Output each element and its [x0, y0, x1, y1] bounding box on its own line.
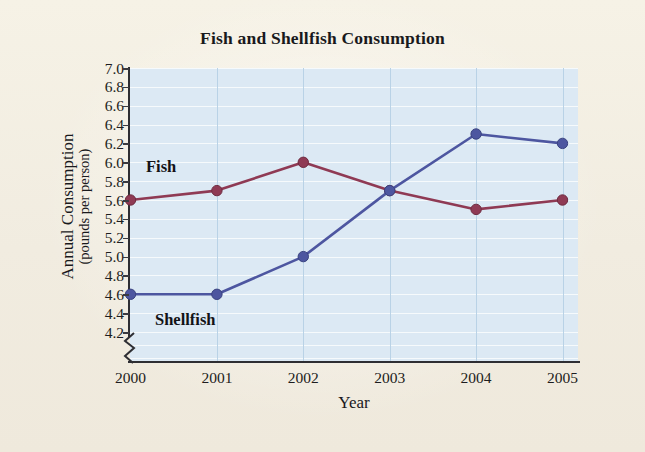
vertical-gridline	[303, 68, 304, 362]
y-axis-tick-mark	[123, 332, 129, 334]
y-axis-tick-mark	[123, 200, 129, 202]
y-axis-tick-label: 4.8	[105, 268, 124, 284]
vertical-gridline	[217, 68, 218, 362]
x-axis-title: Year	[130, 393, 578, 413]
y-axis-tick-mark	[123, 125, 129, 127]
horizontal-gridline	[130, 257, 578, 258]
y-axis-tick-label: 5.2	[105, 230, 124, 246]
horizontal-gridline	[130, 358, 578, 359]
y-axis-tick-mark	[123, 238, 129, 240]
x-axis-tick-labels: 200020012002200320042005	[0, 369, 645, 391]
y-axis-tick-mark	[123, 68, 129, 70]
horizontal-gridline	[130, 106, 578, 107]
horizontal-gridline	[130, 200, 578, 201]
y-axis-tick-mark	[123, 313, 129, 315]
y-axis-tick-mark	[123, 87, 129, 89]
vertical-gridline	[563, 68, 564, 362]
y-axis-tick-mark	[123, 106, 129, 108]
horizontal-gridline	[130, 143, 578, 144]
y-axis-tick-mark	[123, 294, 129, 296]
y-axis-tick-label: 4.2	[105, 325, 124, 341]
y-axis-tick-label: 5.6	[105, 193, 124, 209]
y-axis-tick-mark	[123, 162, 129, 164]
horizontal-gridline	[130, 238, 578, 239]
x-axis-tick-label: 2003	[374, 369, 405, 387]
horizontal-gridline	[130, 275, 578, 276]
y-axis-tick-mark	[123, 275, 129, 277]
y-axis-tick-label: 7.0	[105, 61, 124, 77]
y-axis-tick-label: 5.4	[105, 211, 124, 227]
y-axis-tick-mark	[123, 181, 129, 183]
series-label-fish: Fish	[146, 157, 176, 177]
y-axis-tick-label: 4.6	[105, 287, 124, 303]
y-axis-tick-label: 5.8	[105, 174, 124, 190]
y-axis-tick-label: 6.2	[105, 136, 124, 152]
y-axis-tick-mark	[123, 257, 129, 259]
chart-page: Fish and Shellfish Consumption 7.06.86.6…	[0, 0, 645, 452]
horizontal-gridline	[130, 332, 578, 333]
y-axis-tick-label: 6.6	[105, 98, 124, 114]
horizontal-gridline	[130, 87, 578, 88]
x-axis-tick-label: 2005	[547, 369, 578, 387]
y-axis-tick-label: 6.0	[105, 155, 124, 171]
x-axis-tick-label: 2004	[461, 369, 492, 387]
horizontal-gridline	[130, 219, 578, 220]
horizontal-gridline	[130, 162, 578, 163]
series-label-shellfish: Shellfish	[155, 310, 216, 330]
horizontal-gridline	[130, 345, 578, 346]
x-axis-tick-label: 2001	[201, 369, 232, 387]
y-axis-tick-mark	[123, 219, 129, 221]
y-axis-tick-label: 5.0	[105, 249, 124, 265]
horizontal-gridline	[130, 125, 578, 126]
y-axis-tick-label: 4.4	[105, 306, 124, 322]
horizontal-gridline	[130, 68, 578, 69]
y-axis-tick-label: 6.4	[105, 117, 124, 133]
vertical-gridline	[476, 68, 477, 362]
y-axis-tick-mark	[123, 143, 129, 145]
x-axis-tick-label: 2002	[288, 369, 319, 387]
horizontal-gridline	[130, 181, 578, 182]
y-axis-title: Annual Consumption (pounds per person)	[59, 67, 92, 347]
y-axis-title-sub: (pounds per person)	[77, 67, 92, 347]
x-axis-line	[128, 361, 580, 363]
y-axis-title-main: Annual Consumption	[59, 67, 77, 347]
horizontal-gridline	[130, 294, 578, 295]
y-axis-tick-label: 6.8	[105, 79, 124, 95]
vertical-gridline	[390, 68, 391, 362]
x-axis-tick-label: 2000	[115, 369, 146, 387]
y-axis-line	[128, 67, 130, 337]
